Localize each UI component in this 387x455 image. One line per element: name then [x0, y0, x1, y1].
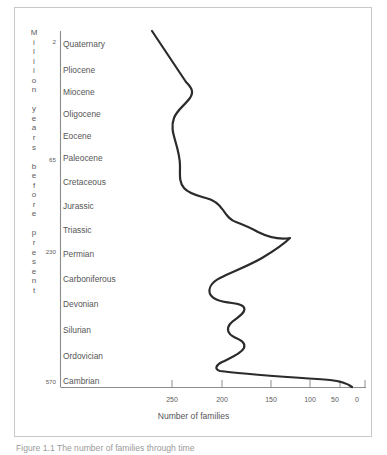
figure-container: M i l l i o n y e a r s b e f o r e p r …	[0, 0, 387, 455]
figure-caption: Figure 1.1 The number of families throug…	[16, 443, 376, 454]
diversity-chart	[0, 0, 387, 455]
diversity-curve-line	[152, 31, 352, 387]
